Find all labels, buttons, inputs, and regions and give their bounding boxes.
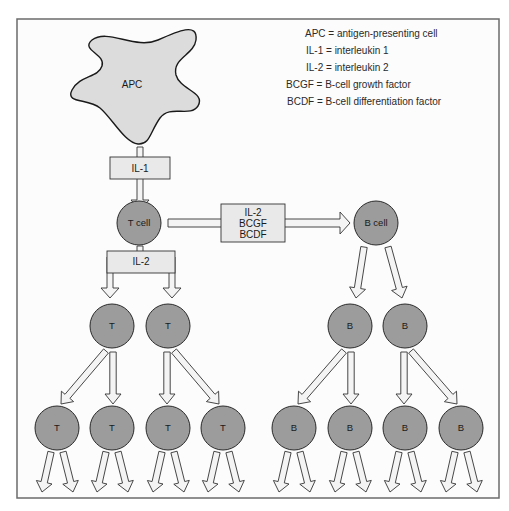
immune-response-diagram: APC = antigen-presenting cell IL-1 = int… [0,0,509,511]
factor-il2-label: IL-2 [244,207,262,218]
t-cell-gen2-label: T [54,422,60,433]
t-cell-gen1-label: T [109,320,115,331]
legend-item-bcdf: BCDF = B-cell differentiation factor [287,96,442,107]
b-cell-gen1-label: B [402,320,408,331]
b-cell-gen2-label: B [291,422,297,433]
t-cell-gen2-label: T [220,422,226,433]
il1-label: IL-1 [131,163,149,174]
b-cell-label: B cell [364,217,387,228]
b-cell-gen2-label: B [402,422,408,433]
legend-item-il2: IL-2 = interleukin 2 [306,62,389,73]
il2-label: IL-2 [132,256,150,267]
t-cell-label: T cell [128,217,151,228]
b-cell-gen1-label: B [347,320,353,331]
b-cell-gen2-label: B [458,422,464,433]
legend-item-il1: IL-1 = interleukin 1 [306,45,389,56]
factor-bcgf-label: BCGF [239,218,267,229]
factor-bcdf-label: BCDF [239,229,266,240]
t-cell-gen2-label: T [165,422,171,433]
b-cell-gen2-label: B [347,422,353,433]
legend-item-bcgf: BCGF = B-cell growth factor [286,79,411,90]
t-cell-gen2-label: T [109,422,115,433]
apc-label: APC [122,79,143,90]
t-cell-gen1-label: T [165,320,171,331]
legend-item-apc: APC = antigen-presenting cell [305,28,438,39]
